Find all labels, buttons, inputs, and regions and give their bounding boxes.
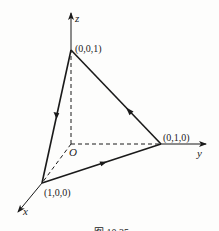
origin-label: O — [69, 146, 77, 158]
vertex-label-001: (0,0,1) — [75, 43, 102, 55]
arrow-down-icon — [54, 112, 60, 119]
edge-y-to-z — [71, 50, 161, 144]
triangle-diagram: z y x O (0,0,1) (0,1,0) (1,0,0) 图 10.35 — [0, 0, 219, 231]
vertex-label-100: (1,0,0) — [44, 187, 71, 199]
diagram-canvas: z y x O (0,0,1) (0,1,0) (1,0,0) 图 10.35 — [0, 0, 219, 231]
x-axis — [18, 144, 71, 212]
arrow-right-icon — [100, 162, 108, 167]
y-axis-label: y — [196, 147, 202, 159]
z-axis-label: z — [74, 12, 80, 24]
x-axis-label: x — [22, 205, 28, 217]
figure-caption: 图 10.35 — [94, 227, 129, 231]
vertex-label-010: (0,1,0) — [163, 132, 190, 144]
edge-x-to-y — [42, 144, 161, 183]
